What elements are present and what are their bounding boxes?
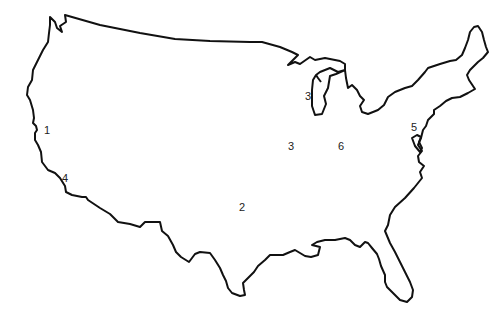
us-border-outline (0, 0, 492, 313)
region-label-6: 6 (338, 141, 344, 152)
region-label-1: 1 (44, 125, 50, 136)
region-label-4: 4 (62, 173, 68, 184)
region-label-3-great-lakes: 3 (305, 91, 311, 102)
region-label-2: 2 (239, 202, 245, 213)
region-label-3-midwest: 3 (288, 141, 294, 152)
us-outline-map: 1 4 2 3 3 6 5 (0, 0, 492, 313)
region-label-5: 5 (411, 122, 417, 133)
